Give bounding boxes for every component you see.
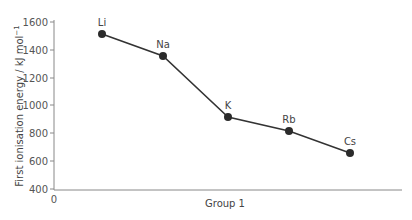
point-label-cs: Cs — [344, 136, 356, 147]
ytick-label: 1200 — [23, 73, 48, 84]
ionisation-energy-chart: 1600 1400 1200 1000 800 600 400 0 First … — [0, 0, 412, 220]
y-axis-title: First ionisation energy / kJ mol−1 — [13, 25, 25, 186]
y-ticks: 1600 1400 1200 1000 800 600 400 — [23, 17, 54, 195]
marker-rb — [285, 127, 293, 135]
x-axis-title: Group 1 — [205, 198, 245, 209]
origin-label: 0 — [51, 194, 57, 205]
data-markers — [98, 30, 354, 157]
marker-li — [98, 30, 106, 38]
ytick-label: 1000 — [23, 100, 48, 111]
point-label-na: Na — [156, 39, 170, 50]
data-line — [102, 34, 350, 153]
marker-cs — [346, 149, 354, 157]
point-label-li: Li — [98, 17, 106, 28]
ytick-label: 600 — [29, 156, 48, 167]
marker-k — [224, 113, 232, 121]
ytick-label: 800 — [29, 128, 48, 139]
point-label-rb: Rb — [282, 114, 295, 125]
ytick-label: 1400 — [23, 45, 48, 56]
ytick-label: 400 — [29, 184, 48, 195]
marker-na — [159, 52, 167, 60]
point-label-k: K — [225, 100, 232, 111]
ytick-label: 1600 — [23, 17, 48, 28]
